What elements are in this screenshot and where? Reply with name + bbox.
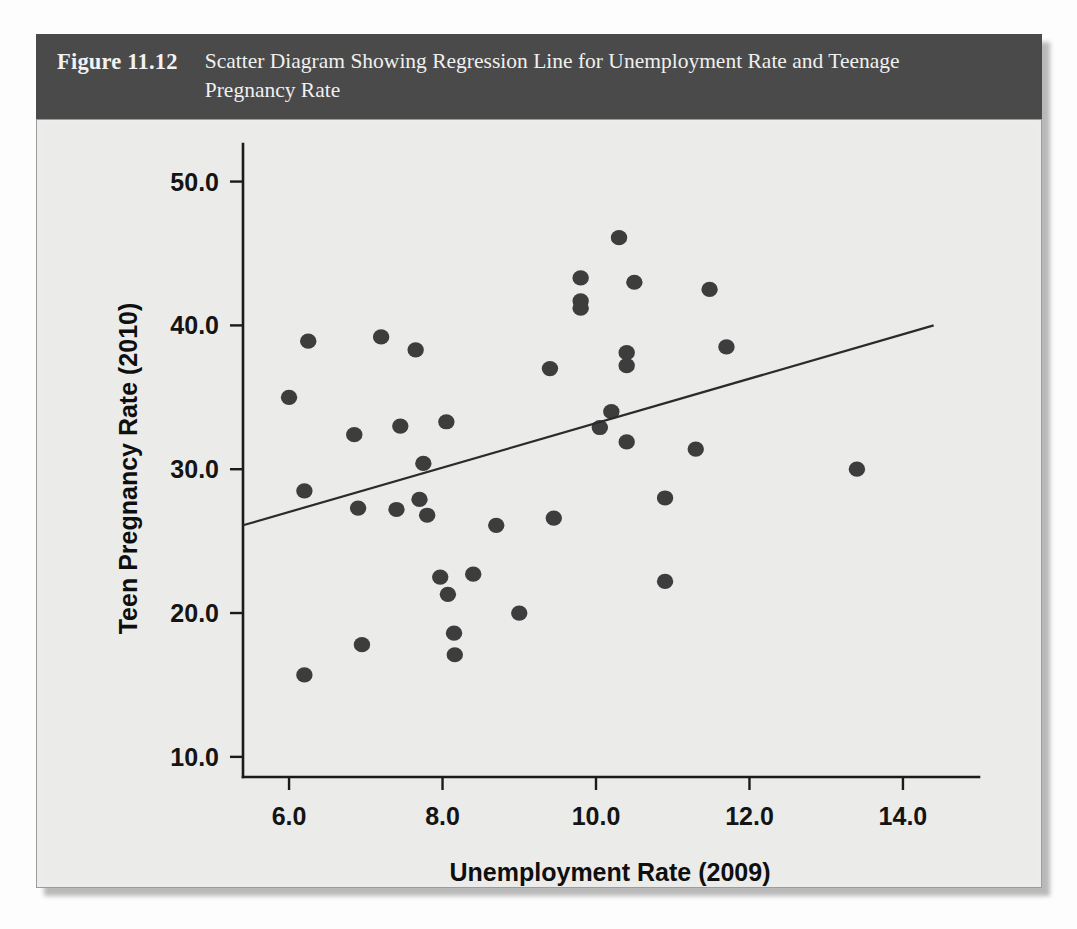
y-tick-label: 40.0 [170,311,219,339]
x-axis-title: Unemployment Rate (2009) [450,858,771,886]
scatter-point [572,270,588,285]
scatter-point [618,345,634,360]
scatter-point [657,574,673,589]
x-tick-label: 14.0 [879,802,928,830]
y-axis-ticks: 10.020.030.040.050.0 [170,168,243,771]
y-axis-title: Teen Pregnancy Rate (2010) [114,303,142,635]
scatter-point [438,414,454,429]
scatter-point [388,502,404,517]
y-tick-label: 50.0 [170,168,219,196]
scatter-point [350,500,366,515]
scatter-point [618,434,634,449]
scatter-point [465,567,481,582]
scatter-point [392,418,408,433]
scatter-point [511,605,527,620]
y-tick-label: 30.0 [170,455,219,483]
scatter-point [415,456,431,471]
x-axis-ticks: 6.08.010.012.014.0 [272,777,928,830]
scatter-point [296,667,312,682]
scatter-point [346,427,362,442]
scatter-point [546,511,562,526]
figure-root: Figure 11.12 Scatter Diagram Showing Reg… [0,0,1077,929]
scatter-chart: 10.020.030.040.050.0 6.08.010.012.014.0 … [37,120,1042,888]
scatter-point [440,587,456,602]
scatter-point [354,637,370,652]
scatter-point [281,390,297,405]
scatter-point [657,490,673,505]
scatter-points [281,230,865,682]
scatter-point [407,342,423,357]
figure-plot-panel: 10.020.030.040.050.0 6.08.010.012.014.0 … [36,119,1042,888]
scatter-point [488,518,504,533]
scatter-point [296,483,312,498]
figure-number-label: Figure 11.12 [57,47,178,76]
figure-title-banner: Figure 11.12 Scatter Diagram Showing Reg… [36,34,1042,119]
x-tick-label: 10.0 [572,802,621,830]
figure-title-row: Figure 11.12 Scatter Diagram Showing Reg… [57,47,1028,105]
scatter-point [618,358,634,373]
scatter-point [447,647,463,662]
scatter-point [411,492,427,507]
y-tick-label: 20.0 [170,599,219,627]
scatter-point [718,339,734,354]
scatter-point [611,230,627,245]
scatter-point [446,626,462,641]
scatter-point [300,334,316,349]
x-tick-label: 6.0 [272,802,307,830]
scatter-point [701,282,717,297]
x-tick-label: 8.0 [425,802,460,830]
x-tick-label: 12.0 [725,802,774,830]
scatter-point [432,569,448,584]
figure-caption-text: Scatter Diagram Showing Regression Line … [205,47,995,105]
scatter-point [688,441,704,456]
scatter-point [373,329,389,344]
scatter-point [849,462,865,477]
y-tick-label: 10.0 [170,743,219,771]
scatter-point [572,301,588,316]
regression-line [243,325,934,525]
scatter-point [542,361,558,376]
scatter-point [419,508,435,523]
scatter-point [626,275,642,290]
